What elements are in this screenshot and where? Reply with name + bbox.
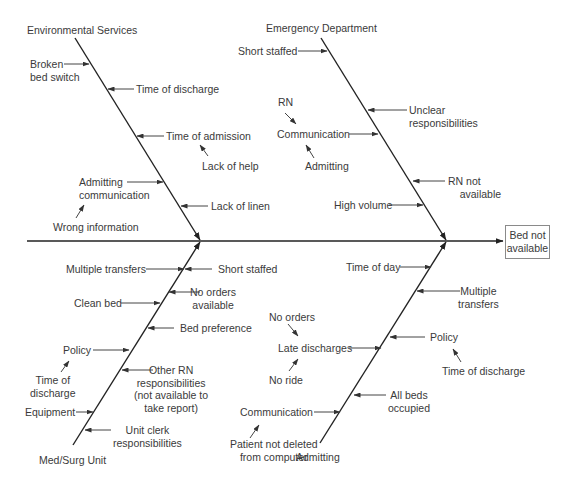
category-med-surg-unit: Med/Surg Unit <box>39 454 106 467</box>
subcause-wrong-information: Wrong information <box>53 221 139 234</box>
subcause-time-of-discharge: Time of discharge <box>30 374 76 399</box>
arrow-ed-admitting <box>306 145 314 158</box>
cause-adm-policy: Policy <box>430 331 458 344</box>
cause-ed-short-staffed: Short staffed <box>238 45 297 58</box>
effect-label: Bed not available <box>507 229 548 255</box>
cause-policy: Policy <box>63 344 91 357</box>
arrow-no-orders <box>288 324 298 336</box>
cause-admitting-communication: Admitting communication <box>79 176 150 201</box>
cause-ed-communication: Communication <box>277 128 350 141</box>
cause-unit-clerk-responsibilities: Unit clerk responsibilities <box>113 424 182 449</box>
category-admitting: Admitting <box>296 451 340 464</box>
arrow-adm-time-of-discharge <box>453 349 461 362</box>
subcause-admitting: Admitting <box>305 160 349 173</box>
arrow-ms-time-of-discharge <box>61 361 69 372</box>
subcause-adm-time-of-discharge: Time of discharge <box>442 365 525 378</box>
cause-clean-bed: Clean bed <box>74 297 122 310</box>
arrow-no-ride <box>289 359 298 371</box>
cause-bed-preference: Bed preference <box>180 322 252 335</box>
category-emergency-department: Emergency Department <box>266 22 377 35</box>
arrow-lack-of-help <box>200 145 208 156</box>
category-environmental-services: Environmental Services <box>27 24 137 37</box>
cause-rn-not-available: RN not available <box>448 175 501 200</box>
cause-high-volume: High volume <box>334 199 392 212</box>
cause-all-beds-occupied: All beds occupied <box>388 389 430 414</box>
cause-adm-communication: Communication <box>240 406 313 419</box>
cause-no-orders-available: No orders available <box>190 286 236 311</box>
arrow-rn <box>285 113 296 124</box>
cause-other-rn-responsibilities: Other RN responsibilities (not available… <box>134 364 208 414</box>
subcause-lack-of-help: Lack of help <box>202 160 259 173</box>
cause-adm-multiple-transfers: Multiple transfers <box>458 285 499 310</box>
subcause-rn: RN <box>278 96 293 109</box>
subcause-no-ride: No ride <box>269 374 303 387</box>
cause-lack-of-linen: Lack of linen <box>211 200 270 213</box>
cause-time-of-day: Time of day <box>346 261 400 274</box>
cause-multiple-transfers: Multiple transfers <box>66 263 146 276</box>
cause-equipment: Equipment <box>25 406 75 419</box>
cause-ms-short-staffed: Short staffed <box>218 263 277 276</box>
cause-late-discharges: Late discharges <box>278 342 352 355</box>
cause-time-of-discharge: Time of discharge <box>136 83 219 96</box>
cause-broken-bed-switch: Broken bed switch <box>30 58 80 83</box>
subcause-no-orders: No orders <box>269 311 315 324</box>
arrow-patient-not-deleted <box>250 425 259 438</box>
cause-time-of-admission: Time of admission <box>166 130 251 143</box>
cause-unclear-responsibilities: Unclear responsibilities <box>409 104 478 129</box>
arrow-wrong-information <box>76 205 84 218</box>
effect-box-bed-not-available: Bed not available <box>505 225 550 259</box>
